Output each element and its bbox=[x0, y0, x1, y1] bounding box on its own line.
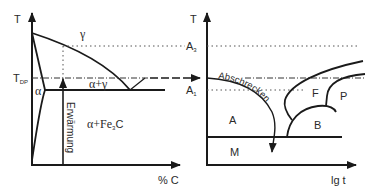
quench-label: Abschrecken bbox=[218, 70, 273, 104]
right-y-axis-label: T bbox=[190, 13, 197, 25]
iron-carbon-phase-diagram: T TDP γ α α+γ α+Fe3C Erwärmung % C bbox=[13, 13, 200, 186]
right-x-axis-label: lg t bbox=[331, 174, 346, 186]
pearlite-region-label: P bbox=[340, 90, 347, 102]
a3-curve bbox=[32, 33, 130, 90]
austenite-region-label: A bbox=[229, 114, 237, 126]
bainite-region-label: B bbox=[314, 119, 321, 131]
martensite-region-label: M bbox=[230, 146, 239, 158]
ferrite-start-curve bbox=[285, 61, 363, 120]
ttt-diagram: Abschrecken T A3 A1 A M B F P lg t bbox=[186, 13, 365, 186]
alpha-boundary-upper bbox=[32, 33, 45, 90]
alpha-label: α bbox=[35, 84, 42, 98]
a1-label: A1 bbox=[186, 84, 197, 97]
ferrite-region-label: F bbox=[312, 87, 319, 99]
gamma-label: γ bbox=[79, 27, 86, 41]
left-y-axis-label: T bbox=[14, 13, 21, 25]
alpha-fe3c-label: α+Fe3C bbox=[87, 117, 123, 131]
bainite-curve bbox=[287, 106, 336, 137]
tdp-label: TDP bbox=[13, 72, 28, 85]
a3-label: A3 bbox=[186, 40, 197, 53]
alpha-gamma-label: α+γ bbox=[89, 77, 108, 91]
alpha-boundary-lower bbox=[32, 90, 45, 160]
heating-label: Erwärmung bbox=[65, 102, 76, 153]
heat-treatment-diagram: T TDP γ α α+γ α+Fe3C Erwärmung % C Absch… bbox=[0, 0, 377, 192]
triangle-marker bbox=[130, 78, 145, 90]
left-x-axis-label: % C bbox=[158, 174, 179, 186]
